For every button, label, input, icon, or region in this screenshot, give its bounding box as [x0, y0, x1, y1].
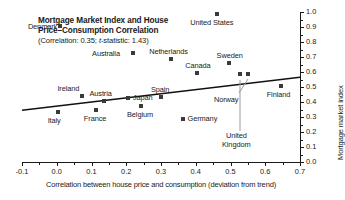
data-point-label: Netherlands [149, 47, 188, 56]
data-point-label: Germany [188, 114, 218, 123]
regression-trend-line [22, 77, 300, 110]
data-point-label: Spain [151, 85, 169, 94]
data-point-label: Canada [185, 61, 210, 70]
data-point-marker [58, 24, 62, 28]
data-point-marker [159, 95, 163, 99]
data-point-label: United States [190, 18, 233, 27]
data-point-marker [238, 72, 242, 76]
data-point-label: Kingdom [222, 140, 250, 149]
data-point-label: United [226, 131, 247, 140]
data-point-label: Japan [133, 93, 153, 102]
data-point-marker [181, 117, 185, 121]
data-point-marker [56, 110, 60, 114]
data-point-label: Belgium [127, 110, 153, 119]
data-point-marker [102, 99, 106, 103]
data-point-label: Denmark [28, 22, 57, 31]
data-point-label: Italy [48, 116, 61, 125]
data-point-label: Ireland [57, 84, 79, 93]
data-point-marker [195, 71, 199, 75]
data-point-label: Sweden [217, 51, 243, 60]
data-point-marker [139, 104, 143, 108]
data-point-marker [215, 12, 219, 16]
data-point-marker [227, 61, 231, 65]
data-point-marker [279, 84, 283, 88]
data-point-label: Austria [89, 89, 111, 98]
data-point-label: Australia [92, 49, 120, 58]
data-point-marker [126, 96, 130, 100]
data-point-label: France [84, 114, 106, 123]
data-point-marker [169, 57, 173, 61]
data-point-marker [246, 72, 250, 76]
data-point-marker [80, 94, 84, 98]
data-point-marker [94, 108, 98, 112]
data-point-label: Finland [267, 90, 291, 99]
data-point-marker [131, 51, 135, 55]
data-point-label: Norway [214, 95, 238, 104]
